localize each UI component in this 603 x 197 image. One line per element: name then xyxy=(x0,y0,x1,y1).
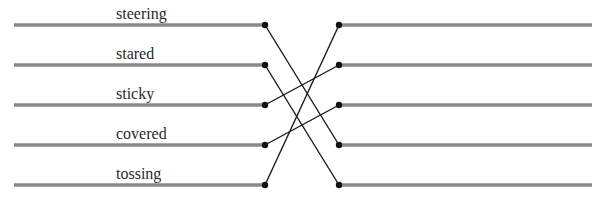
left-dot xyxy=(262,22,268,28)
connector-line xyxy=(265,65,339,105)
left-word-label: tossing xyxy=(116,166,161,182)
left-word-label: stared xyxy=(116,46,154,62)
right-bars xyxy=(339,25,592,185)
connector-line xyxy=(265,105,339,145)
right-dot xyxy=(336,22,342,28)
left-word-label: sticky xyxy=(116,86,154,102)
connectors xyxy=(265,25,339,185)
right-dot xyxy=(336,62,342,68)
left-dot xyxy=(262,182,268,188)
right-dot xyxy=(336,102,342,108)
matching-diagram xyxy=(0,0,603,197)
left-word-label: steering xyxy=(116,6,167,22)
connector-line xyxy=(265,25,339,185)
left-word-label: covered xyxy=(116,126,167,142)
left-dot xyxy=(262,102,268,108)
left-dot xyxy=(262,142,268,148)
right-dot xyxy=(336,142,342,148)
left-dot xyxy=(262,62,268,68)
right-dot xyxy=(336,182,342,188)
